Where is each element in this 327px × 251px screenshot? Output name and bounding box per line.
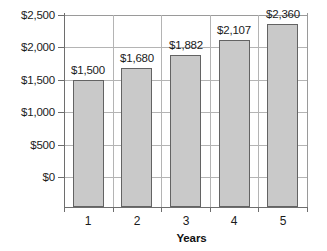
bar-value-label: $2,360 — [266, 8, 300, 20]
bar-value-label: $1,882 — [169, 39, 203, 51]
y-tick-label-0: $0 — [43, 171, 55, 183]
x-tick-2 — [161, 207, 162, 212]
x-tick-label-3: 3 — [164, 214, 208, 228]
y-axis-line — [64, 13, 65, 209]
bar-value-label: $1,500 — [71, 64, 105, 76]
gridline-vertical-2 — [161, 15, 162, 207]
x-tick-label-4: 4 — [212, 214, 256, 228]
bar — [170, 55, 201, 207]
y-tick-label-1500: $1,500 — [21, 74, 55, 86]
bar-value-label: $2,107 — [217, 24, 251, 36]
x-tick-label-2: 2 — [115, 214, 159, 228]
x-tick-0 — [64, 207, 65, 212]
gridline-vertical-4 — [258, 15, 259, 207]
bar — [73, 80, 104, 207]
bar — [121, 68, 152, 207]
x-tick-3 — [210, 207, 211, 212]
y-tick-label-2500: $2,500 — [21, 9, 55, 21]
x-axis-line — [64, 207, 308, 208]
x-tick-1 — [113, 207, 114, 212]
bar-chart: $0$500$1,000$1,500$2,000$2,500 $1,500$1,… — [0, 0, 327, 251]
x-tick-4 — [258, 207, 259, 212]
y-tick-label-1000: $1,000 — [21, 106, 55, 118]
gridline-vertical-1 — [113, 15, 114, 207]
x-tick-label-1: 1 — [66, 214, 110, 228]
bar — [219, 40, 250, 207]
bar — [267, 24, 298, 207]
x-tick-label-5: 5 — [261, 214, 305, 228]
bar-value-label: $1,680 — [120, 52, 154, 64]
y-tick-label-2000: $2,000 — [21, 41, 55, 53]
y-tick-label-500: $500 — [30, 139, 55, 151]
x-tick-5 — [307, 207, 308, 212]
plot-right-edge — [307, 13, 308, 209]
x-axis-title: Years — [0, 232, 327, 244]
gridline-vertical-3 — [210, 15, 211, 207]
